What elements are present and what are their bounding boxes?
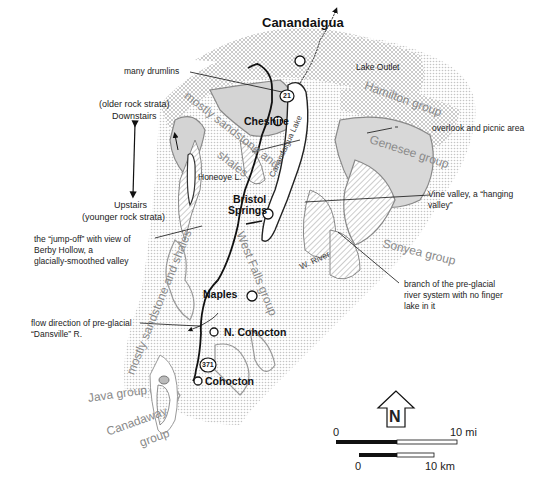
town-marker-naples	[247, 291, 257, 301]
scale-mi-end: 10 mi	[450, 426, 477, 438]
branch-note-2: river system with no finger	[404, 290, 503, 300]
route-21-label: 21	[283, 91, 291, 101]
town-cheshire: Cheshire	[244, 116, 289, 127]
branch-note-3: lake in it	[404, 301, 435, 311]
vine-valley-note-2: valley”	[428, 200, 453, 210]
drumlins-note: many drumlins	[124, 66, 179, 76]
branch-note-1: branch of the pre-glacial	[404, 279, 495, 289]
town-marker-canandaigua	[295, 56, 305, 66]
route-371-label: 371	[202, 360, 214, 370]
flow-note-1: flow direction of pre-glacial	[31, 318, 132, 328]
north-arrow-label: N	[389, 409, 401, 425]
town-canandaigua: Canandaigua	[262, 17, 344, 28]
town-marker-cohocton	[194, 377, 202, 385]
strata-older-2: Downstairs	[112, 111, 157, 121]
town-cohocton: Cohocton	[205, 376, 254, 387]
overlook-note: overlook and picnic area	[432, 123, 524, 133]
lake-outlet-label: Lake Outlet	[356, 62, 399, 72]
town-n-cohocton: N. Cohocton	[224, 327, 286, 338]
jumpoff-note-1: the “jump-off” with view of	[34, 234, 131, 244]
scale-km-end: 10 km	[425, 460, 455, 472]
strata-younger-1: Upstairs	[114, 200, 147, 210]
vine-valley-note-1: Vine valley, a “hanging	[428, 189, 513, 199]
jumpoff-note-2: Berby Hollow, a	[34, 245, 93, 255]
town-naples: Naples	[203, 289, 237, 300]
strata-younger-2: (younger rock strata)	[82, 212, 165, 222]
strata-older-1: (older rock strata)	[99, 99, 170, 109]
scale-km-start: 0	[355, 460, 361, 472]
flow-note-2: “Dansville” R.	[31, 329, 82, 339]
jumpoff-note-3: glacially-smoothed valley	[34, 256, 129, 266]
town-marker-n-cohocton	[210, 328, 218, 336]
scale-mi-start: 0	[333, 426, 339, 438]
town-springs: Springs	[228, 205, 267, 216]
strata-arrow	[133, 124, 135, 195]
